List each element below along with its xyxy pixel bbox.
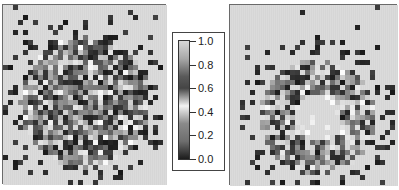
- tick-mark: [190, 41, 196, 42]
- tick-label-0-8: 0.8: [198, 60, 213, 71]
- heatmap-left-canvas: [3, 5, 167, 185]
- colorbar-gradient: [178, 40, 190, 160]
- tick-label-1-0: 1.0: [198, 36, 213, 47]
- tick-label-0-2: 0.2: [198, 130, 213, 141]
- tick-label-0-0: 0.0: [198, 154, 213, 165]
- tick-mark: [190, 112, 196, 113]
- colorbar: 1.0 0.8 0.6 0.4 0.2 0.0: [172, 32, 225, 171]
- tick-mark: [190, 88, 196, 89]
- tick-mark: [190, 65, 196, 66]
- heatmap-right-ring: [229, 4, 397, 185]
- tick-label-0-4: 0.4: [198, 107, 213, 118]
- tick-mark: [190, 159, 196, 160]
- tick-mark: [190, 135, 196, 136]
- tick-label-0-6: 0.6: [198, 83, 213, 94]
- heatmap-left-disk: [2, 4, 166, 184]
- heatmap-right-canvas: [230, 5, 398, 186]
